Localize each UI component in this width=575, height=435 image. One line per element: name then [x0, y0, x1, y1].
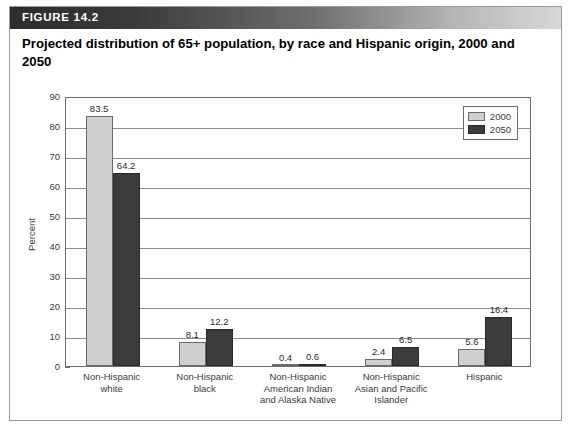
x-axis-label-3: Non-HispanicAmerican Indianand Alaska Na… [247, 371, 348, 406]
x-axis-category-labels: Non-HispanicwhiteNon-HispanicblackNon-Hi… [65, 371, 531, 421]
figure-title: Projected distribution of 65+ population… [22, 35, 532, 71]
bar-value-label: 6.5 [386, 334, 425, 345]
y-tick-label: 60 [26, 182, 60, 192]
bar-2000-2[interactable] [179, 342, 206, 366]
figure-header-band: FIGURE 14.2 [10, 7, 561, 29]
y-tick-label: 20 [26, 302, 60, 312]
x-axis-label-line: Non-Hispanic [247, 371, 348, 383]
bar-value-label: 16.4 [479, 304, 518, 315]
y-tick-label: 80 [26, 122, 60, 132]
chart-area: Percent 0102030405060708090 83.564.28.11… [10, 79, 563, 422]
figure-label: FIGURE 14.2 [22, 11, 99, 23]
y-tick-label: 10 [26, 332, 60, 342]
x-axis-label-line: Islander [341, 394, 442, 406]
x-axis-label-4: Non-HispanicAsian and PacificIslander [341, 371, 442, 406]
x-axis-label-line: black [154, 383, 255, 395]
gridline [66, 128, 530, 129]
bar-2000-4[interactable] [365, 359, 392, 366]
y-tick-label: 30 [26, 272, 60, 282]
legend-label-2000: 2000 [490, 111, 511, 122]
x-axis-label-line: American Indian [247, 383, 348, 395]
x-axis-label-line: white [61, 383, 162, 395]
bar-2050-4[interactable] [392, 347, 419, 367]
legend-item-2050[interactable]: 2050 [468, 123, 511, 136]
x-axis-label-1: Non-Hispanicwhite [61, 371, 162, 394]
y-tick-mark [65, 367, 70, 368]
y-tick-label: 70 [26, 152, 60, 162]
y-tick-label: 50 [26, 212, 60, 222]
x-axis-label-line: Asian and Pacific [341, 383, 442, 395]
plot-area: 83.564.28.112.20.40.62.46.55.616.4 2000 … [65, 97, 531, 367]
bar-value-label: 64.2 [107, 160, 146, 171]
figure-container: FIGURE 14.2 Projected distribution of 65… [9, 6, 562, 421]
x-axis-label-line: Non-Hispanic [154, 371, 255, 383]
bar-2000-1[interactable] [86, 116, 113, 367]
x-axis-label-5: Hispanic [434, 371, 535, 383]
x-axis-label-2: Non-Hispanicblack [154, 371, 255, 394]
bar-value-label: 0.6 [293, 351, 332, 362]
x-axis-label-line: Non-Hispanic [61, 371, 162, 383]
x-axis-label-line: and Alaska Native [247, 394, 348, 406]
legend-label-2050: 2050 [490, 124, 511, 135]
x-axis-label-line: Hispanic [434, 371, 535, 383]
y-tick-label: 40 [26, 242, 60, 252]
bar-2050-2[interactable] [206, 329, 233, 366]
bar-2050-1[interactable] [113, 173, 140, 366]
bar-2000-3[interactable] [272, 364, 299, 366]
legend-item-2000[interactable]: 2000 [468, 110, 511, 123]
gridline [66, 158, 530, 159]
x-axis-label-line: Non-Hispanic [341, 371, 442, 383]
bar-2000-5[interactable] [458, 349, 485, 366]
y-tick-label: 90 [26, 92, 60, 102]
chart-legend[interactable]: 2000 2050 [463, 106, 518, 140]
y-tick-label: 0 [26, 362, 60, 372]
legend-swatch-2000-icon [468, 112, 485, 121]
y-axis-ticks: 0102030405060708090 [20, 97, 60, 367]
legend-swatch-2050-icon [468, 125, 485, 134]
bar-value-label: 83.5 [80, 103, 119, 114]
bar-2050-5[interactable] [485, 317, 512, 366]
bar-value-label: 12.2 [200, 316, 239, 327]
bar-2050-3[interactable] [299, 364, 326, 366]
